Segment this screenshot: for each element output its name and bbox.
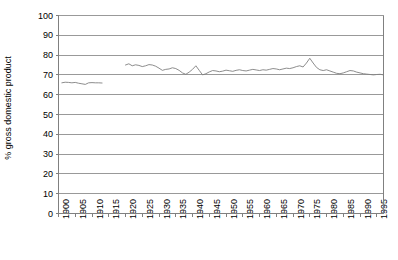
gridlines <box>59 16 384 194</box>
data-line <box>126 58 384 75</box>
axis-tickmarks <box>56 16 377 217</box>
data-series <box>62 58 384 84</box>
data-line <box>62 82 102 84</box>
plot-area <box>0 0 398 260</box>
chart-container: % gross domestic product 010203040506070… <box>0 0 398 260</box>
